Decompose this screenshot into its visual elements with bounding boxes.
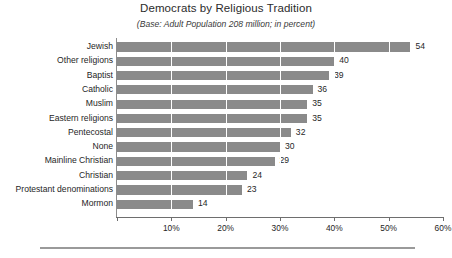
category-label: Catholic (3, 84, 113, 95)
x-tick-label: 50% (374, 223, 404, 233)
x-tick-mark (389, 217, 390, 221)
x-tick-mark (280, 217, 281, 221)
bar-value-label: 36 (318, 84, 328, 95)
category-label: Jewish (3, 41, 113, 52)
chart-title: Democrats by Religious Tradition (0, 2, 452, 14)
bar (117, 128, 291, 137)
x-tick-mark (443, 217, 444, 221)
bar (117, 100, 307, 109)
category-label: Protestant denominations (3, 184, 113, 195)
category-label: Christian (3, 170, 113, 181)
bar (117, 185, 242, 194)
chart-container: Democrats by Religious Tradition (Base: … (0, 0, 452, 258)
category-label: Baptist (3, 70, 113, 81)
footer-divider (40, 247, 415, 249)
bar (117, 157, 275, 166)
plot-area: 544039363535323029242314 (117, 40, 443, 216)
x-tick-mark (171, 217, 172, 221)
category-label: Mainline Christian (3, 155, 113, 166)
category-label: Mormon (3, 198, 113, 209)
bar (117, 85, 313, 94)
gridline (334, 40, 335, 216)
category-label: Eastern religions (3, 113, 113, 124)
category-label: None (3, 141, 113, 152)
gridline (171, 40, 172, 216)
gridline (226, 40, 227, 216)
category-label: Pentecostal (3, 127, 113, 138)
x-tick-mark (334, 217, 335, 221)
x-tick-label: 20% (211, 223, 241, 233)
bar-value-label: 30 (285, 141, 295, 152)
category-label: Muslim (3, 98, 113, 109)
bar-value-label: 35 (312, 98, 322, 109)
x-tick-label: 30% (265, 223, 295, 233)
x-tick-label: 40% (319, 223, 349, 233)
bar (117, 142, 280, 151)
bar-value-label: 40 (339, 55, 349, 66)
x-tick-mark (226, 217, 227, 221)
bar-value-label: 32 (296, 127, 306, 138)
category-label: Other religions (3, 55, 113, 66)
bar-value-label: 35 (312, 113, 322, 124)
x-tick-mark (117, 217, 118, 221)
bar (117, 171, 247, 180)
bar-value-label: 23 (247, 184, 257, 195)
bar (117, 114, 307, 123)
bar-value-label: 54 (415, 41, 425, 52)
gridline (389, 40, 390, 216)
bar-value-label: 24 (252, 170, 262, 181)
bar-value-label: 14 (198, 198, 208, 209)
bar (117, 42, 410, 51)
x-tick-label: 60% (428, 223, 452, 233)
bar (117, 200, 193, 209)
chart-subtitle: (Base: Adult Population 208 million; in … (0, 19, 452, 29)
gridline (443, 40, 444, 216)
gridline (280, 40, 281, 216)
bar (117, 71, 329, 80)
x-tick-label: 10% (156, 223, 186, 233)
